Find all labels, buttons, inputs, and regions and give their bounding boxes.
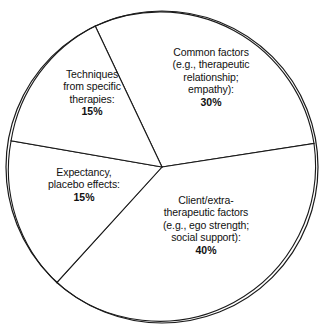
pie-label-common-factors-line-1: Common factors — [148, 46, 274, 58]
pie-label-techniques-line-3: therapies: — [36, 93, 148, 105]
pie-label-common-factors-line-4: empathy): — [148, 83, 274, 95]
pie-label-common-factors-line-3: relationship; — [148, 71, 274, 83]
pie-label-expectancy-line-2: placebo effects: — [22, 178, 146, 190]
pie-label-client-line-3: (e.g., ego strength; — [136, 219, 276, 231]
pie-label-client-extratherapeutic: Client/extra- therapeutic factors (e.g.,… — [136, 194, 276, 256]
pie-label-techniques-line-2: from specific — [36, 80, 148, 92]
pie-value-client-extratherapeutic: 40% — [136, 244, 276, 256]
pie-label-expectancy-line-1: Expectancy, — [22, 166, 146, 178]
pie-label-client-line-1: Client/extra- — [136, 194, 276, 206]
pie-label-client-line-2: therapeutic factors — [136, 206, 276, 218]
pie-label-common-factors: Common factors (e.g., therapeutic relati… — [148, 46, 274, 108]
pie-value-expectancy: 15% — [22, 191, 146, 203]
pie-label-expectancy: Expectancy, placebo effects: 15% — [22, 166, 146, 203]
pie-label-common-factors-line-2: (e.g., therapeutic — [148, 58, 274, 70]
pie-label-techniques: Techniques from specific therapies: 15% — [36, 68, 148, 118]
pie-label-client-line-4: social support): — [136, 231, 276, 243]
pie-value-techniques: 15% — [36, 105, 148, 117]
pie-chart: Common factors (e.g., therapeutic relati… — [0, 0, 325, 336]
pie-label-techniques-line-1: Techniques — [36, 68, 148, 80]
pie-value-common-factors: 30% — [148, 96, 274, 108]
